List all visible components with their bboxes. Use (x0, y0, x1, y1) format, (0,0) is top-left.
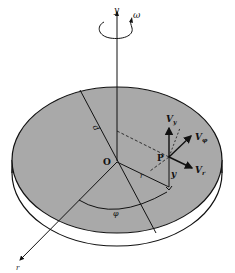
angle-label: φ (113, 209, 119, 218)
rotating-disk-diagram: y ω d r r y φ O P Vy Vφ Vr (0, 0, 235, 273)
origin-label: O (103, 157, 111, 167)
height-label: y (170, 169, 177, 179)
point-label: P (157, 153, 164, 163)
diagram-canvas: y ω d r r y φ O P Vy Vφ Vr (0, 0, 235, 273)
rotation-arrow-icon (99, 20, 132, 39)
radial-axis-label: r (16, 264, 20, 272)
y-axis-label: y (113, 5, 120, 15)
omega-label: ω (133, 10, 141, 20)
